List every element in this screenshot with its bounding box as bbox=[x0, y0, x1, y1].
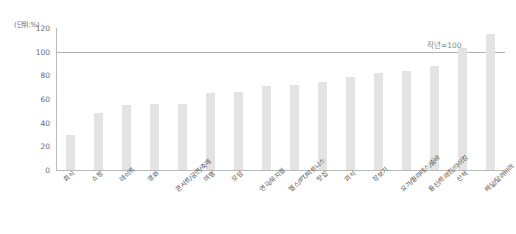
x-tick-label: 쇼핑 bbox=[89, 168, 104, 183]
y-tick-label: 80 bbox=[24, 71, 50, 80]
y-tick-label: 120 bbox=[24, 24, 50, 33]
y-tick-label: 20 bbox=[24, 142, 50, 151]
y-tick-label: 40 bbox=[24, 118, 50, 127]
bar bbox=[66, 135, 75, 171]
bar bbox=[122, 105, 131, 170]
x-tick-label: 모임 bbox=[229, 168, 244, 183]
x-tick-label: 외식 bbox=[342, 168, 357, 183]
bar bbox=[150, 104, 159, 170]
bar bbox=[486, 34, 495, 170]
x-tick-label: 연극/뮤지컬 bbox=[257, 165, 287, 193]
bar bbox=[178, 104, 187, 170]
bar bbox=[290, 85, 299, 170]
bar bbox=[234, 92, 243, 170]
bar bbox=[402, 71, 411, 170]
y-tick-label: 100 bbox=[24, 47, 50, 56]
bar bbox=[94, 113, 103, 170]
y-tick-label: 60 bbox=[24, 95, 50, 104]
y-tick-label: 0 bbox=[24, 166, 50, 175]
x-tick-label: 회식 bbox=[61, 168, 76, 183]
bar bbox=[374, 73, 383, 170]
bar bbox=[262, 86, 271, 170]
bar bbox=[346, 77, 355, 170]
x-axis-labels: 회식쇼핑데이트영화콘서트/공연/축제여행모임연극/뮤지컬헬스/PT/피트니스맛집… bbox=[56, 170, 505, 234]
plot-area bbox=[56, 28, 505, 170]
x-tick-label: 영화 bbox=[145, 168, 160, 183]
